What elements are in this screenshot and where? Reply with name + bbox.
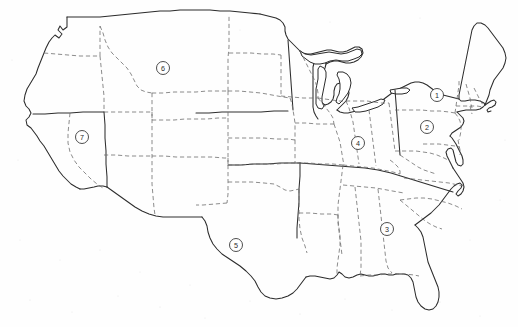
region-marker-label: 5	[234, 241, 238, 250]
lake-huron-shape	[336, 72, 351, 104]
state-border-nm-tx-south	[196, 203, 227, 205]
state-border-in-oh	[369, 110, 376, 166]
region-marker-3[interactable]: 3	[381, 223, 394, 236]
state-border-nv-ut	[68, 113, 103, 188]
us-map-figure: 1234567	[0, 0, 518, 327]
state-border-mt-wy	[152, 91, 228, 93]
region-divider-southeast	[395, 90, 400, 155]
state-border-mt-dakotas	[228, 14, 229, 91]
state-border-az-nm	[152, 112, 155, 215]
region-divider-midwest-south	[300, 163, 453, 192]
region-marker-label: 3	[385, 225, 389, 234]
lake-ontario-shape	[390, 88, 410, 94]
state-border-vt-nh	[466, 84, 472, 108]
region-marker-label: 1	[435, 91, 439, 100]
state-border-pa-ny	[395, 110, 455, 113]
state-border-ne-ks	[228, 138, 295, 140]
state-border-id-mt	[100, 26, 152, 93]
state-border-ok-tx	[228, 182, 299, 191]
state-border-pa-md	[423, 144, 460, 147]
state-border-mo-il	[334, 124, 344, 165]
state-border-nh-me	[474, 88, 483, 105]
state-border-va-wv	[400, 155, 436, 174]
chesapeake-delmarva-outline	[446, 136, 463, 168]
region-marker-1[interactable]: 1	[431, 89, 444, 102]
region-marker-label: 4	[356, 139, 360, 148]
state-border-ga-sc	[400, 200, 442, 229]
state-border-group	[44, 14, 483, 276]
national-outline-group	[24, 10, 506, 310]
lake-superior-border	[260, 14, 300, 51]
region-divider-pacific	[33, 112, 104, 114]
state-border-nc-va	[404, 178, 465, 186]
state-border-ny-vt	[455, 80, 459, 113]
state-border-ms-al	[355, 187, 361, 276]
state-border-or-id	[100, 56, 104, 112]
state-border-ar-la	[299, 213, 338, 215]
state-border-nd-sd	[229, 53, 281, 55]
region-marker-group: 1234567	[76, 62, 444, 252]
us-map-drawing: 1234567	[0, 0, 518, 327]
region-marker-label: 6	[161, 64, 165, 73]
state-border-ia-mo	[295, 123, 334, 124]
region-divider-plains-north	[196, 111, 288, 113]
state-border-co-nm	[152, 156, 228, 158]
state-border-ut-az	[104, 155, 152, 156]
state-border-oh-pa	[389, 103, 395, 151]
state-border-tx-la	[299, 189, 307, 253]
state-border-nj-ny	[455, 113, 461, 140]
region-marker-5[interactable]: 5	[230, 239, 243, 252]
maine-outline	[459, 23, 506, 105]
rio-grande-border	[202, 217, 306, 299]
state-border-tn-south	[343, 185, 404, 193]
region-divider-great-basin	[104, 112, 107, 187]
region-marker-4[interactable]: 4	[352, 137, 365, 150]
region-marker-6[interactable]: 6	[157, 62, 170, 75]
region-marker-7[interactable]: 7	[76, 131, 89, 144]
northern-border-49th-parallel	[67, 10, 260, 17]
state-border-sc-nc	[400, 198, 462, 209]
great-lakes-group	[300, 49, 410, 112]
florida-peninsula-outline	[396, 225, 439, 310]
lake-michigan-shape	[316, 66, 326, 109]
region-marker-label: 2	[425, 123, 429, 132]
region-divider-group	[33, 40, 453, 238]
state-border-wa-or	[44, 53, 100, 56]
southern-california-coast	[80, 186, 107, 189]
region-marker-2[interactable]: 2	[421, 121, 434, 134]
state-border-wy-co	[152, 118, 228, 120]
south-atlantic-coast	[415, 168, 464, 225]
state-border-wv-md	[395, 151, 450, 161]
west-coast-outline	[24, 17, 80, 189]
region-marker-label: 7	[80, 133, 84, 142]
state-border-ar-ms	[337, 165, 343, 275]
gulf-coast-outline	[306, 272, 396, 279]
state-border-ma-ct	[456, 106, 483, 107]
